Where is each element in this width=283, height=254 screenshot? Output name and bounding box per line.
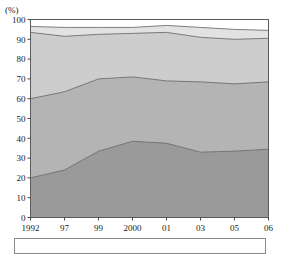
y-tick-label: 90 [17, 35, 27, 45]
y-tick-label: 80 [17, 54, 27, 64]
y-axis-unit-label: (%) [5, 5, 19, 15]
x-tick-label: 1992 [22, 223, 40, 233]
x-tick-label: 01 [162, 223, 171, 233]
y-tick-label: 20 [17, 173, 27, 183]
y-tick-label: 70 [17, 74, 27, 84]
x-tick-label: 97 [60, 223, 70, 233]
y-tick-label: 10 [17, 193, 27, 203]
y-tick-label: 0 [21, 213, 26, 223]
y-tick-label: 60 [17, 94, 27, 104]
x-tick-label: 2000 [124, 223, 143, 233]
y-tick-label: 30 [17, 153, 27, 163]
y-tick-label: 40 [17, 134, 27, 144]
legend-entries [15, 239, 265, 243]
x-tick-label: 03 [196, 223, 206, 233]
chart-legend [14, 238, 266, 254]
x-tick-label: 05 [230, 223, 240, 233]
y-tick-label: 50 [17, 114, 27, 124]
y-tick-label: 100 [12, 15, 26, 25]
x-tick-label: 99 [94, 223, 104, 233]
x-tick-label: 06 [264, 223, 274, 233]
